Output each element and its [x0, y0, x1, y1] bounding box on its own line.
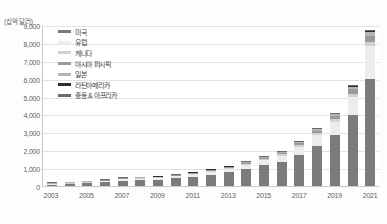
bar-segment — [294, 147, 304, 155]
legend-color-swatch — [58, 30, 71, 33]
x-axis-tick-label — [60, 189, 78, 209]
legend-color-swatch — [58, 73, 71, 76]
bar-segment — [153, 180, 163, 186]
y-axis-tick-label: 4,000 — [2, 112, 40, 119]
x-axis-tick-label — [343, 189, 361, 209]
bar-segment — [224, 172, 234, 186]
legend-item-label: 라틴아메리카 — [75, 80, 109, 90]
bar-stack — [224, 166, 234, 186]
bar-stack — [100, 179, 110, 186]
bar-stack — [47, 182, 57, 186]
bar-segment — [188, 177, 198, 186]
bar-column[interactable] — [131, 26, 149, 186]
x-axis-tick-label — [273, 189, 291, 209]
bar-segment — [65, 184, 75, 186]
bar-stack — [241, 161, 251, 186]
bar-column[interactable] — [273, 26, 291, 186]
bar-stack — [259, 156, 269, 186]
x-axis-tick-label: 2017 — [290, 189, 308, 209]
y-axis-tick-label: 0 — [2, 184, 40, 191]
bar-stack — [312, 128, 322, 186]
y-axis-tick-label: 2,000 — [2, 148, 40, 155]
legend-item-4[interactable]: 아시아 퍼시픽 — [58, 59, 117, 69]
bar-column[interactable] — [326, 26, 344, 186]
bar-stack — [206, 169, 216, 186]
y-axis-tick-label: 3,000 — [2, 130, 40, 137]
bar-segment — [100, 182, 110, 186]
bar-column[interactable] — [185, 26, 203, 186]
bar-segment — [135, 180, 145, 186]
bar-segment — [206, 175, 216, 186]
x-axis-tick-label — [308, 189, 326, 209]
bar-stack — [118, 177, 128, 186]
bar-column[interactable] — [361, 26, 379, 186]
legend-item-2[interactable]: 유럽 — [58, 38, 117, 48]
bar-column[interactable] — [255, 26, 273, 186]
y-axis-tick-label: 7,000 — [2, 58, 40, 65]
bar-segment — [348, 115, 358, 186]
bar-column[interactable] — [149, 26, 167, 186]
bar-column[interactable] — [308, 26, 326, 186]
y-axis-tick-label: 1,000 — [2, 166, 40, 173]
bar-segment — [241, 169, 251, 186]
x-axis-tick-label — [237, 189, 255, 209]
bar-segment — [294, 155, 304, 186]
bar-column[interactable] — [202, 26, 220, 186]
x-axis-tick-label: 2021 — [361, 189, 379, 209]
bar-segment — [171, 178, 181, 186]
bar-segment — [365, 46, 375, 78]
legend-item-label: 미국 — [75, 27, 86, 37]
legend-item-6[interactable]: 라틴아메리카 — [58, 80, 117, 90]
legend-item-5[interactable]: 일본 — [58, 69, 117, 79]
x-axis-tick-label — [95, 189, 113, 209]
chart-legend: 미국유럽캐나다아시아 퍼시픽일본라틴아메리카중동 & 아프리카 — [58, 27, 117, 100]
bar-column[interactable] — [167, 26, 185, 186]
bar-stack — [171, 174, 181, 186]
x-axis-tick-label: 2009 — [148, 189, 166, 209]
legend-color-swatch — [58, 51, 71, 54]
y-axis-tick-labels: 9,0008,0007,0006,0005,0004,0003,0002,000… — [0, 26, 40, 187]
stacked-bar-chart: (십억 달러) 9,0008,0007,0006,0005,0004,0003,… — [0, 0, 387, 224]
bar-segment — [118, 181, 128, 186]
bar-stack — [153, 176, 163, 186]
bar-stack — [348, 85, 358, 186]
x-axis-tick-label: 2015 — [255, 189, 273, 209]
legend-item-7[interactable]: 중동 & 아프리카 — [58, 91, 117, 101]
legend-item-3[interactable]: 캐나다 — [58, 48, 117, 58]
bar-segment — [47, 185, 57, 186]
legend-color-swatch — [58, 62, 71, 65]
x-axis-tick-label: 2013 — [219, 189, 237, 209]
bar-column[interactable] — [291, 26, 309, 186]
legend-color-swatch — [58, 83, 71, 86]
bar-segment — [259, 165, 269, 186]
bar-segment — [277, 162, 287, 186]
bar-segment — [312, 135, 322, 145]
bar-segment — [330, 135, 340, 186]
bar-column[interactable] — [344, 26, 362, 186]
bar-stack — [330, 113, 340, 186]
x-axis-tick-label: 2003 — [42, 189, 60, 209]
legend-item-label: 유럽 — [75, 37, 86, 47]
bar-segment — [330, 122, 340, 135]
legend-item-label: 아시아 퍼시픽 — [75, 59, 111, 69]
x-axis-tick-labels: 2003200520072009201120132015201720192021 — [42, 189, 379, 209]
bar-segment — [312, 146, 322, 186]
bar-column[interactable] — [220, 26, 238, 186]
legend-item-1[interactable]: 미국 — [58, 27, 117, 37]
bar-stack — [188, 172, 198, 186]
x-axis-tick-label: 2019 — [326, 189, 344, 209]
legend-color-swatch — [58, 41, 71, 44]
bar-segment — [348, 97, 358, 115]
bar-segment — [365, 79, 375, 186]
bar-column[interactable] — [238, 26, 256, 186]
x-axis-tick-label — [202, 189, 220, 209]
bar-stack — [65, 182, 75, 186]
x-axis-tick-label: 2007 — [113, 189, 131, 209]
x-axis-tick-label — [166, 189, 184, 209]
legend-item-label: 중동 & 아프리카 — [75, 90, 117, 100]
legend-item-label: 일본 — [75, 69, 86, 79]
y-axis-tick-label: 8,000 — [2, 40, 40, 47]
legend-item-label: 캐나다 — [75, 48, 92, 58]
y-axis-tick-label: 9,000 — [2, 23, 40, 30]
bar-segment — [82, 183, 92, 186]
